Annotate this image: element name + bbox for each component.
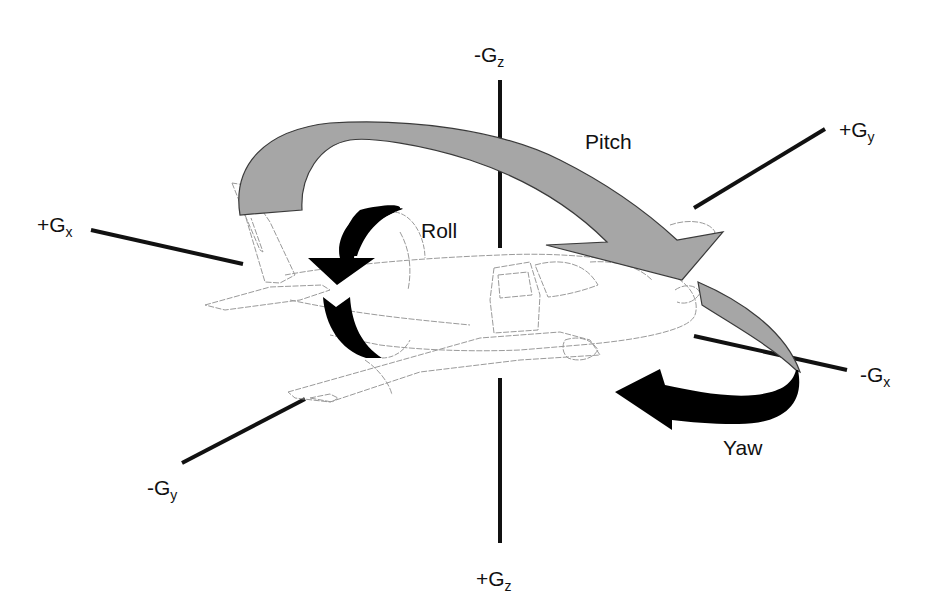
label-yaw: Yaw: [723, 437, 762, 458]
pitch-arrow: [239, 122, 800, 372]
base: G: [851, 118, 867, 141]
horizontal-stabilizer: [205, 285, 330, 310]
base: G: [481, 43, 497, 66]
label-pitch: Pitch: [585, 131, 632, 152]
roll-arrow-upper-band: [340, 205, 400, 256]
base: G: [49, 213, 65, 236]
gy-axis-left: [182, 399, 305, 463]
subscript: x: [883, 374, 890, 390]
label-pos-gx: +Gx: [37, 214, 73, 235]
yaw-arrow: [615, 369, 799, 430]
base: G: [867, 363, 883, 386]
label-neg-gx: -Gx: [860, 364, 890, 385]
subscript: y: [868, 129, 875, 145]
windshield: [535, 262, 598, 297]
sign: +: [476, 567, 488, 590]
label-neg-gz: -Gz: [474, 44, 504, 65]
base: G: [488, 567, 504, 590]
pitch-arrow-tail: [698, 282, 800, 372]
label-roll: Roll: [421, 220, 457, 241]
subscript: y: [170, 487, 177, 503]
gy-axis-right: [694, 129, 825, 208]
subscript: z: [497, 54, 504, 70]
cabin-door: [490, 262, 540, 333]
sign: -: [474, 43, 481, 66]
axis-diagram: [0, 0, 925, 608]
roll-arrow: [308, 205, 425, 358]
base: G: [154, 476, 170, 499]
label-pos-gz: +Gz: [476, 568, 512, 589]
yaw-arrow-body: [615, 369, 799, 430]
sign: -: [147, 476, 154, 499]
window: [498, 272, 532, 298]
roll-arrow-lower: [323, 297, 382, 358]
sign: +: [839, 118, 851, 141]
subscript: x: [66, 224, 73, 240]
label-pos-gy: +Gy: [839, 119, 875, 140]
main-wing: [288, 332, 600, 402]
subscript: z: [505, 578, 512, 594]
label-neg-gy: -Gy: [147, 477, 177, 498]
sign: -: [860, 363, 867, 386]
sign: +: [37, 213, 49, 236]
gx-axis-rear: [91, 230, 243, 264]
